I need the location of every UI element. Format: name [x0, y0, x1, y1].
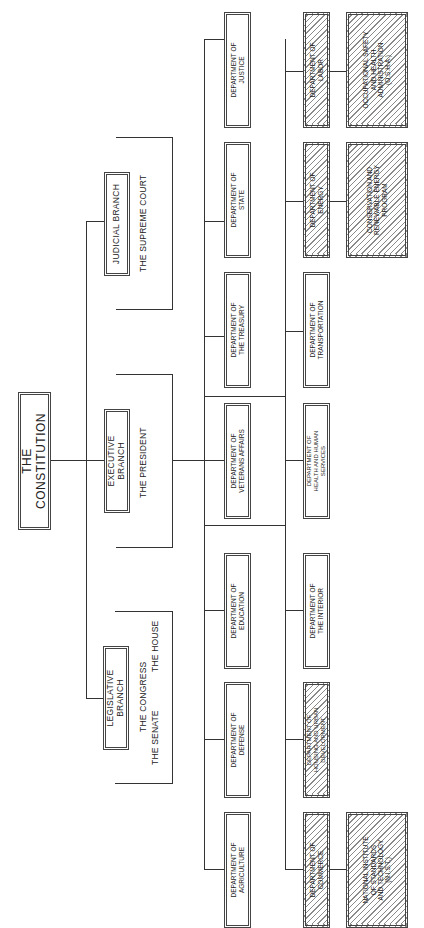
agency-label: AND HEALTH: [370, 50, 377, 91]
executive-branch-box: EXECUTIVE BRANCH: [104, 409, 130, 513]
dept-transportation-box: DEPARTMENT OFTRANSPORTATION: [303, 272, 330, 388]
dept-labor-box: DEPARTMENT OFLABOR: [303, 12, 330, 128]
agency-label: OCCUPATIONAL SAFETY: [362, 31, 369, 108]
dept-label: DEPARTMENT OF: [309, 173, 316, 228]
dept-label: VETERANS AFFAIRS: [238, 429, 245, 493]
agency-label: NATIONAL INSTITUTE: [362, 836, 369, 903]
dept-label: STATE: [238, 190, 245, 210]
dept-justice-box: DEPARTMENT OFJUSTICE: [224, 12, 251, 128]
connector-line: [204, 39, 224, 40]
row2-spine-line: [285, 39, 286, 870]
dept-education-box: DEPARTMENT OFEDUCATION: [224, 553, 251, 669]
dept-label: HEALTH AND HUMAN: [313, 431, 319, 492]
connector-line: [285, 201, 303, 202]
dept-commerce-box: DEPARTMENT OFCOMMERCE: [303, 812, 330, 928]
constitution-label: THE CONSTITUTION: [21, 395, 49, 527]
dept-label: DEPARTMENT OF: [306, 436, 312, 487]
dept-treasury-box: DEPARTMENT OFTHE TREASURY: [224, 272, 251, 388]
connector-line: [204, 739, 224, 740]
dept-label: DEPARTMENT OF: [306, 715, 312, 766]
legislative-branch-label: LEGISLATIVE BRANCH: [106, 649, 126, 747]
osha-box: OCCUPATIONAL SAFETYAND HEALTHADMINISTRAT…: [346, 12, 408, 128]
dept-label: DEPARTMENT OF: [230, 713, 237, 768]
dept-health-human-services-box: DEPARTMENT OFHEALTH AND HUMANSERVICES: [303, 403, 330, 519]
dept-label: AGRICULTURE: [238, 847, 245, 893]
dept-label: THE INTERIOR: [317, 588, 324, 634]
connector-line: [51, 460, 86, 461]
dept-label: DEPARTMENT OF: [309, 43, 316, 98]
dept-label: DEPARTMENT OF: [230, 584, 237, 639]
agency-label: AND TECHNOLOGY: [377, 840, 384, 901]
dept-label: DEPARTMENT OF: [309, 303, 316, 358]
supreme-court-label: THE SUPREME COURT: [138, 175, 148, 272]
dept-label: DEPARTMENT OF: [230, 303, 237, 358]
connector-line: [204, 460, 224, 461]
dept-housing-urban-development-box: DEPARTMENT OFHOUSING AND URBANDEVELOPMEN…: [303, 682, 330, 798]
constitution-box: THE CONSTITUTION: [18, 392, 51, 530]
executive-branch-label: EXECUTIVE BRANCH: [107, 412, 127, 510]
dept-label: HOUSING AND URBAN: [313, 708, 319, 773]
row1-spine-line: [204, 39, 205, 870]
dept-label: TRANSPORTATION: [317, 301, 324, 360]
connector-line: [204, 525, 285, 526]
connector-line: [204, 396, 285, 397]
dept-label: DEPARTMENT OF: [309, 584, 316, 639]
agency-label: (O.S.H.A.): [384, 55, 391, 85]
connector-line: [285, 331, 303, 332]
agency-label: OF STANDARDS: [370, 845, 377, 895]
dept-label: DEPARTMENT OF: [230, 173, 237, 228]
house-label: THE HOUSE: [150, 621, 160, 672]
dept-agriculture-box: DEPARTMENT OFAGRICULTURE: [224, 812, 251, 928]
agency-label: PROGRAM: [381, 183, 388, 217]
dept-label: THE TREASURY: [238, 305, 245, 355]
connector-line: [173, 460, 204, 461]
dept-label: EDUCATION: [238, 592, 245, 630]
dept-interior-box: DEPARTMENT OFTHE INTERIOR: [303, 553, 330, 669]
connector-line: [285, 739, 303, 740]
connector-line: [330, 71, 346, 72]
judicial-branch-box: JUDICIAL BRANCH: [104, 172, 130, 276]
dept-veterans-affairs-box: DEPARTMENT OFVETERANS AFFAIRS: [224, 403, 251, 519]
judicial-branch-label: JUDICIAL BRANCH: [112, 180, 122, 268]
org-chart: THE CONSTITUTION LEGISLATIVE BRANCH THE …: [0, 0, 424, 928]
dept-state-box: DEPARTMENT OFSTATE: [224, 142, 251, 258]
congress-label: THE CONGRESS: [138, 662, 148, 732]
connector-line: [285, 610, 303, 611]
agency-label: RENEWABLE ENERGY: [373, 165, 380, 235]
senate-label: THE SENATE: [150, 710, 160, 765]
agency-label: (N.I.S.T.): [384, 857, 391, 883]
connector-line: [86, 460, 104, 461]
president-label: THE PRESIDENT: [138, 427, 148, 498]
connector-line: [330, 201, 346, 202]
connector-line: [330, 869, 346, 870]
connector-line: [285, 71, 303, 72]
dept-label: SERVICES: [320, 446, 326, 476]
dept-label: DEPARTMENT OF: [309, 843, 316, 898]
dept-label: JUSTICE: [238, 56, 245, 83]
connector-line: [204, 610, 224, 611]
nist-box: NATIONAL INSTITUTEOF STANDARDSAND TECHNO…: [346, 812, 408, 928]
connector-line: [204, 336, 224, 337]
dept-label: LABOR: [317, 59, 324, 81]
agency-label: CONSERVATION AND: [366, 167, 373, 233]
conservation-renewable-energy-box: CONSERVATION ANDRENEWABLE ENERGYPROGRAM: [346, 142, 408, 258]
connector-line: [285, 869, 303, 870]
dept-defense-box: DEPARTMENT OFDEFENSE: [224, 682, 251, 798]
dept-label: DEFENSE: [238, 725, 245, 756]
dept-label: DEVELOPMENT: [320, 717, 326, 762]
agency-label: ADMINISTRATION: [377, 42, 384, 97]
connector-line: [285, 460, 303, 461]
dept-energy-box: DEPARTMENT OFENERGY: [303, 142, 330, 258]
connector-line: [204, 221, 224, 222]
dept-label: DEPARTMENT OF: [230, 434, 237, 489]
dept-label: DEPARTMENT OF: [230, 43, 237, 98]
dept-label: DEPARTMENT OF: [230, 843, 237, 898]
dept-label: ENERGY: [317, 186, 324, 213]
legislative-branch-box: LEGISLATIVE BRANCH: [103, 646, 129, 750]
dept-label: COMMERCE: [317, 851, 324, 890]
connector-line: [204, 869, 224, 870]
